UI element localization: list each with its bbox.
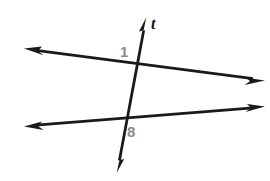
angle-label-1: 1 [120,44,128,59]
geometry-diagram: 1 8 t [0,0,270,181]
upper-line-right-arrowhead [245,78,266,85]
transversal-label-t: t [151,16,155,32]
angle-label-8: 8 [127,124,135,139]
upper-line-shaft [36,50,253,78]
lower-line [24,104,265,130]
transversal-line-t [117,18,147,174]
upper-line [24,46,265,85]
geometry-figure [0,0,270,181]
lower-line-shaft [36,108,253,125]
